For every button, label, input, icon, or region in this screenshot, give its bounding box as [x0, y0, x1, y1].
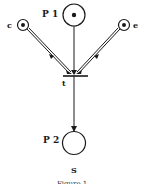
label-p1: P 1 [42, 10, 58, 19]
label-s: S [71, 166, 77, 174]
arc-p1-to-t [71, 26, 77, 75]
arc-c-to-t [27, 28, 72, 74]
label-t: t [62, 79, 66, 87]
token-c [21, 23, 25, 27]
arc-e-to-t [76, 28, 120, 74]
place-p1 [63, 4, 85, 26]
label-p2: P 2 [43, 136, 59, 145]
token-e [122, 23, 126, 27]
label-c: c [7, 21, 12, 29]
figure-caption: Figure 1 [57, 180, 87, 184]
place-p2 [63, 132, 86, 155]
place-e [119, 20, 130, 31]
petri-net-diagram [0, 0, 149, 184]
token-p1 [72, 13, 76, 17]
label-e: e [133, 21, 138, 29]
place-c [18, 20, 29, 31]
arc-t-to-p2 [71, 76, 77, 132]
